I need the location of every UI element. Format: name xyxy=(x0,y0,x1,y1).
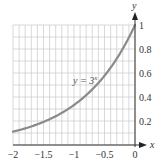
exponential-chart: x y −2−1.5−1−0.50 0.20.40.60.81 y = 3x xyxy=(0,0,161,168)
x-tick-labels: −2−1.5−1−0.50 xyxy=(8,149,138,160)
x-tick-label: −2 xyxy=(8,149,19,160)
y-axis-arrow-icon xyxy=(132,12,138,20)
y-tick-label: 1 xyxy=(139,20,144,31)
y-axis-label: y xyxy=(131,0,137,11)
curve-label: y = 3x xyxy=(72,74,98,86)
y-tick-label: 0.8 xyxy=(139,44,152,55)
y-tick-label: 0.4 xyxy=(139,92,152,103)
y-tick-label: 0.2 xyxy=(139,116,152,127)
x-axis-label: x xyxy=(149,139,155,150)
y-tick-labels: 0.20.40.60.81 xyxy=(139,20,152,127)
x-tick-label: −1.5 xyxy=(34,149,52,160)
y-tick-label: 0.6 xyxy=(139,68,152,79)
x-tick-label: −1 xyxy=(69,149,80,160)
x-tick-label: 0 xyxy=(133,149,138,160)
x-axis-arrow-icon xyxy=(139,142,147,148)
x-tick-label: −0.5 xyxy=(95,149,113,160)
